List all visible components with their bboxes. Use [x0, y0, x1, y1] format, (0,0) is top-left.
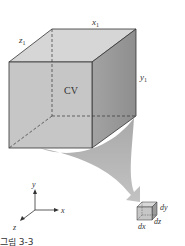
dy-label: dy — [160, 203, 168, 212]
x1-label: x1 — [91, 17, 99, 28]
y1-label: y1 — [139, 72, 147, 83]
figure-caption: 그림 3-3 — [0, 238, 60, 246]
control-volume-diagram: CV x1 z1 y1 dy dz dx y x z — [0, 0, 185, 246]
x-axis-label: x — [60, 206, 65, 215]
y-axis-label: y — [31, 180, 36, 189]
cv-label: CV — [64, 85, 79, 96]
dz-label: dz — [154, 217, 162, 226]
z-axis-label: z — [12, 223, 17, 232]
dx-label: dx — [138, 222, 146, 231]
coordinate-axes — [20, 189, 59, 221]
control-volume-cube: CV — [9, 29, 136, 148]
z1-label: z1 — [18, 35, 26, 46]
cube-front-face — [9, 62, 92, 148]
